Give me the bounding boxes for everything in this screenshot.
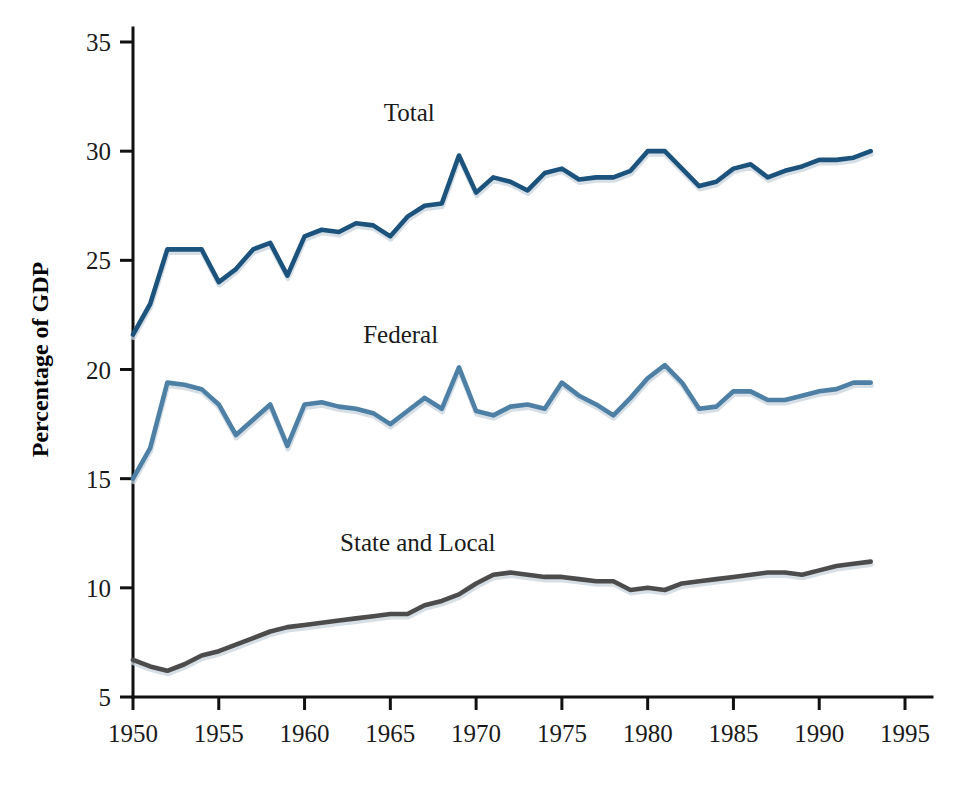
y-tick-label: 35 (86, 29, 111, 56)
data-series (133, 151, 871, 674)
series-labels: TotalFederalState and Local (340, 99, 496, 556)
series-line-total (133, 151, 871, 334)
x-tick-label: 1980 (623, 720, 673, 747)
x-tick-label: 1955 (194, 720, 244, 747)
y-axis-title-text: Percentage of GDP (27, 262, 53, 457)
series-label-state-and-local: State and Local (340, 529, 496, 556)
y-tick-labels: 5101520253035 (86, 29, 111, 711)
series-label-total: Total (384, 99, 435, 126)
x-tick-label: 1990 (794, 720, 844, 747)
x-tick-labels: 1950195519601965197019751980198519901995 (108, 720, 930, 747)
y-axis-title: Percentage of GDP (27, 262, 53, 457)
x-tick-label: 1960 (280, 720, 330, 747)
chart-container: 5101520253035 19501955196019651970197519… (0, 0, 958, 785)
x-tick-label: 1970 (451, 720, 501, 747)
y-tick-label: 25 (86, 247, 111, 274)
y-tick-label: 30 (86, 138, 111, 165)
x-tick-label: 1965 (365, 720, 415, 747)
y-tick-label: 10 (86, 575, 111, 602)
y-tick-label: 20 (86, 357, 111, 384)
line-chart: 5101520253035 19501955196019651970197519… (0, 0, 958, 785)
x-tick-label: 1985 (708, 720, 758, 747)
tick-marks (120, 42, 905, 710)
series-line-federal (133, 365, 871, 479)
series-line-shadow (134, 565, 872, 674)
y-tick-label: 15 (86, 466, 111, 493)
x-tick-label: 1995 (880, 720, 930, 747)
x-tick-label: 1950 (108, 720, 158, 747)
x-tick-label: 1975 (537, 720, 587, 747)
axes (133, 28, 932, 697)
series-label-federal: Federal (363, 321, 438, 348)
y-tick-label: 5 (99, 684, 112, 711)
